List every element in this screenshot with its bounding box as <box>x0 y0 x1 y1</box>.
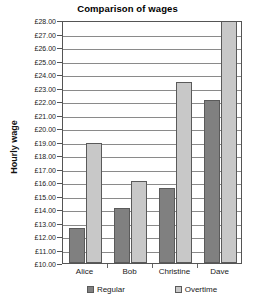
y-axis-tick-label: £22.00 <box>12 99 56 106</box>
y-axis-tick-label: £13.00 <box>12 221 56 228</box>
y-axis-tick-label: £11.00 <box>12 248 56 255</box>
legend-swatch-regular-icon <box>87 286 94 293</box>
y-axis-tick-label: £24.00 <box>12 72 56 79</box>
bar-alice-regular <box>69 228 85 263</box>
y-axis-tick-label: £27.00 <box>12 32 56 39</box>
x-axis-label-dave: Dave <box>190 267 250 276</box>
y-axis-tick-label: £12.00 <box>12 234 56 241</box>
bar-christine-overtime <box>176 82 192 263</box>
chart-legend: RegularOvertime <box>62 283 242 295</box>
y-axis-tick-label: £26.00 <box>12 45 56 52</box>
plot-area <box>62 21 242 264</box>
y-axis-tick-label: £18.00 <box>12 153 56 160</box>
legend-entry-overtime: Overtime <box>175 285 217 294</box>
gridline <box>63 49 241 50</box>
y-axis-tick-mark <box>57 264 62 265</box>
gridline <box>63 63 241 64</box>
y-axis-tick-label: £16.00 <box>12 180 56 187</box>
bar-dave-overtime <box>221 21 237 263</box>
gridline <box>63 76 241 77</box>
y-axis-tick-label: £28.00 <box>12 18 56 25</box>
gridline <box>63 36 241 37</box>
legend-label: Regular <box>97 285 125 294</box>
y-axis-tick-label: £10.00 <box>12 261 56 268</box>
bar-bob-regular <box>114 208 130 263</box>
legend-entry-regular: Regular <box>87 285 125 294</box>
bar-bob-overtime <box>131 181 147 263</box>
y-axis-tick-label: £25.00 <box>12 59 56 66</box>
y-axis-tick-label: £19.00 <box>12 140 56 147</box>
y-axis-tick-label: £21.00 <box>12 113 56 120</box>
gridline <box>63 90 241 91</box>
legend-label: Overtime <box>185 285 217 294</box>
y-axis-tick-label: £17.00 <box>12 167 56 174</box>
bar-christine-regular <box>159 188 175 263</box>
wages-bar-chart: Comparison of wages Hourly wage £28.00£2… <box>0 0 255 299</box>
y-axis-tick-label: £15.00 <box>12 194 56 201</box>
bar-dave-regular <box>204 100 220 263</box>
legend-swatch-overtime-icon <box>175 286 182 293</box>
y-axis-tick-label: £20.00 <box>12 126 56 133</box>
y-axis-tick-label: £23.00 <box>12 86 56 93</box>
bar-alice-overtime <box>86 143 102 263</box>
chart-title: Comparison of wages <box>0 3 255 14</box>
y-axis-tick-label: £14.00 <box>12 207 56 214</box>
